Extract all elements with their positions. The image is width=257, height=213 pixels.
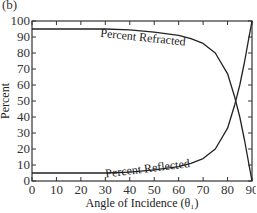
y-axis-title: Percent bbox=[0, 82, 12, 119]
reflected-label: Percent Reflected bbox=[104, 156, 190, 180]
y-tick-label: 70 bbox=[17, 61, 30, 76]
x-tick-label: 90 bbox=[246, 182, 257, 197]
refracted-label: Percent Refracted bbox=[100, 26, 187, 49]
x-tick-label: 50 bbox=[148, 182, 161, 197]
plot-frame bbox=[32, 21, 252, 181]
y-tick-label: 80 bbox=[17, 45, 30, 60]
y-tick-label: 60 bbox=[17, 77, 30, 92]
x-tick-label: 40 bbox=[123, 182, 136, 197]
y-tick-label: 40 bbox=[17, 109, 30, 124]
x-tick-label: 20 bbox=[74, 182, 87, 197]
y-tick-label: 20 bbox=[17, 141, 30, 156]
y-tick-label: 100 bbox=[11, 13, 31, 28]
x-tick-label: 30 bbox=[99, 182, 112, 197]
x-tick-label: 70 bbox=[197, 182, 210, 197]
y-tick-label: 50 bbox=[17, 93, 30, 108]
x-tick-label: 60 bbox=[172, 182, 185, 197]
x-tick-label: 10 bbox=[50, 182, 63, 197]
y-tick-label: 90 bbox=[17, 29, 30, 44]
x-axis-title: Angle of Incidence (θ₁) bbox=[86, 196, 199, 210]
chart: (b)0102030405060708090010203040506070809… bbox=[0, 0, 256, 213]
plot-area: (b)0102030405060708090010203040506070809… bbox=[0, 0, 256, 210]
refracted-curve bbox=[32, 29, 252, 181]
y-tick-label: 0 bbox=[24, 173, 31, 188]
y-tick-label: 10 bbox=[17, 157, 30, 172]
x-tick-label: 80 bbox=[221, 182, 234, 197]
panel-label: (b) bbox=[2, 0, 17, 12]
y-tick-label: 30 bbox=[17, 125, 30, 140]
